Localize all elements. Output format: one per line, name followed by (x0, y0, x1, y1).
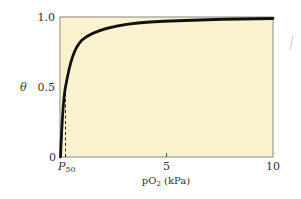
y-axis-label: θ (20, 81, 27, 94)
x-tick-label-5: 5 (163, 160, 170, 173)
chart: 1.0 0.5 0 θ P50 5 10 pO2 (kPa) (0, 0, 301, 199)
x-tick-label-10: 10 (266, 160, 280, 173)
p50-label: P50 (57, 160, 76, 174)
stray-mark (290, 35, 293, 50)
plot-area (60, 17, 273, 157)
x-axis-label: pO2 (kPa) (142, 175, 190, 188)
y-tick-label-05: 0.5 (38, 81, 56, 94)
origin-label: 0 (49, 151, 56, 164)
y-tick-label-1: 1.0 (38, 11, 56, 24)
